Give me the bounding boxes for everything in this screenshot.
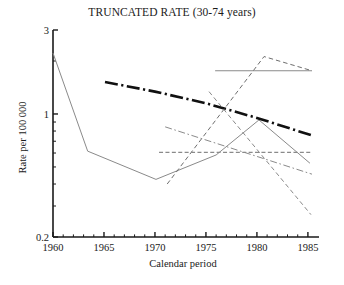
x-tick-label: 1960 bbox=[43, 242, 64, 253]
series-layer bbox=[53, 53, 312, 215]
y-tick-label: 3 bbox=[6, 25, 49, 36]
x-tick-label: 1985 bbox=[297, 242, 318, 253]
series-observed-rate bbox=[53, 53, 310, 179]
y-tick-label: 0.2 bbox=[6, 232, 49, 243]
series-projection-peak-dashed bbox=[167, 57, 312, 184]
x-tick-label: 1980 bbox=[246, 242, 267, 253]
axis-ticks bbox=[53, 30, 308, 237]
x-tick-label: 1970 bbox=[144, 242, 165, 253]
x-axis-title: Calendar period bbox=[53, 258, 313, 269]
series-fitted-trend-bold bbox=[105, 82, 312, 135]
x-tick-label: 1965 bbox=[93, 242, 114, 253]
y-tick-label: 1 bbox=[6, 108, 49, 119]
chart-container: TRUNCATED RATE (30-74 years) 19601965197… bbox=[0, 0, 344, 285]
y-axis-title: Rate per 100 000 bbox=[17, 68, 28, 208]
x-tick-label: 1975 bbox=[195, 242, 216, 253]
series-projection-steep-decline bbox=[209, 92, 311, 215]
